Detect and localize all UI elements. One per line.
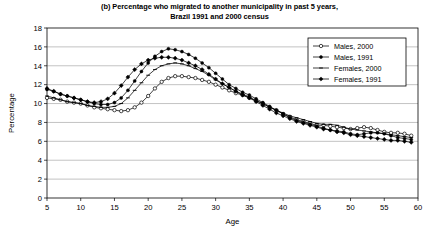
legend-label-3: Females, 1991 xyxy=(334,75,382,84)
series-3-point-54 xyxy=(409,140,413,144)
x-axis-title: Age xyxy=(226,217,240,226)
series-0-point-12 xyxy=(126,108,129,111)
series-0-point-22 xyxy=(194,76,197,79)
series-3-point-21 xyxy=(187,61,191,65)
x-tick-label-55: 55 xyxy=(380,203,388,212)
series-0-point-14 xyxy=(140,101,143,104)
series-3-point-3 xyxy=(65,94,69,98)
series-3-point-50 xyxy=(382,137,386,141)
series-3-point-22 xyxy=(193,64,197,68)
series-3-point-1 xyxy=(52,89,56,93)
series-0-point-52 xyxy=(396,131,399,134)
x-tick-label-45: 45 xyxy=(313,203,321,212)
x-tick-label-10: 10 xyxy=(77,203,85,212)
series-3-point-6 xyxy=(85,100,89,104)
series-1-point-17 xyxy=(160,50,163,53)
series-1-point-26 xyxy=(221,78,224,81)
y-tick-label-4: 4 xyxy=(38,156,42,165)
series-0-point-26 xyxy=(221,86,224,89)
y-tick-label-12: 12 xyxy=(34,80,42,89)
series-0-point-20 xyxy=(180,74,183,77)
y-tick-label-10: 10 xyxy=(34,99,42,108)
x-tick-label-5: 5 xyxy=(45,203,49,212)
series-3-point-5 xyxy=(79,98,83,102)
y-tick-label-2: 2 xyxy=(38,175,42,184)
series-0-point-15 xyxy=(146,94,149,97)
chart-container: (b) Percentage who migrated to another m… xyxy=(0,0,439,239)
series-0-point-46 xyxy=(356,126,359,129)
series-1-point-23 xyxy=(201,61,204,64)
legend-marker-0 xyxy=(319,44,322,47)
series-0-point-16 xyxy=(153,87,156,90)
x-tick-label-40: 40 xyxy=(279,203,287,212)
y-axis-title: Percentage xyxy=(7,93,16,133)
series-3-point-48 xyxy=(369,135,373,139)
series-3-point-8 xyxy=(99,100,103,104)
legend-label-0: Males, 2000 xyxy=(334,42,373,51)
y-tick-label-18: 18 xyxy=(34,24,42,33)
y-tick-label-14: 14 xyxy=(34,62,42,71)
x-tick-label-20: 20 xyxy=(144,203,152,212)
series-1-point-22 xyxy=(194,57,197,60)
series-1-point-14 xyxy=(140,70,143,73)
series-0-point-47 xyxy=(362,125,365,128)
series-0-point-11 xyxy=(120,109,123,112)
series-0-point-18 xyxy=(167,76,170,79)
series-3-point-51 xyxy=(389,138,393,142)
series-0-point-48 xyxy=(369,126,372,129)
series-1-point-18 xyxy=(167,47,170,50)
y-tick-label-6: 6 xyxy=(38,137,42,146)
series-0-point-54 xyxy=(410,134,413,137)
series-1-point-10 xyxy=(113,101,116,104)
series-0-point-25 xyxy=(214,83,217,86)
series-3-point-47 xyxy=(362,135,366,139)
series-3-point-42 xyxy=(328,128,332,132)
series-1-point-9 xyxy=(106,103,109,106)
series-1-point-21 xyxy=(187,53,190,56)
series-0-point-42 xyxy=(329,125,332,128)
legend: Males, 2000Males, 1991Females, 2000Femal… xyxy=(308,38,406,86)
series-0-point-19 xyxy=(173,74,176,77)
x-tick-label-35: 35 xyxy=(245,203,253,212)
chart-plot-area: 02468101214161851015202530354045505560Ag… xyxy=(0,0,439,239)
series-3-point-53 xyxy=(402,139,406,143)
series-0-point-13 xyxy=(133,106,136,109)
series-1-point-25 xyxy=(214,72,217,75)
series-3-point-4 xyxy=(72,96,76,100)
series-0-point-21 xyxy=(187,75,190,78)
x-axis-ticks: 51015202530354045505560 xyxy=(45,198,422,212)
series-1-point-20 xyxy=(180,50,183,53)
legend-marker-1 xyxy=(320,56,323,59)
series-0-point-53 xyxy=(403,132,406,135)
series-1-point-12 xyxy=(126,89,129,92)
series-3-point-18 xyxy=(166,55,170,59)
legend-label-1: Males, 1991 xyxy=(334,53,373,62)
series-1-point-13 xyxy=(133,79,136,82)
y-tick-label-16: 16 xyxy=(34,43,42,52)
series-1-point-19 xyxy=(174,48,177,51)
x-tick-label-30: 30 xyxy=(211,203,219,212)
series-3-point-19 xyxy=(173,56,177,60)
y-tick-label-8: 8 xyxy=(38,118,42,127)
series-1-point-24 xyxy=(207,66,210,69)
series-0-point-23 xyxy=(200,78,203,81)
x-tick-label-15: 15 xyxy=(110,203,118,212)
x-tick-label-60: 60 xyxy=(414,203,422,212)
series-3-point-52 xyxy=(396,138,400,142)
x-tick-label-25: 25 xyxy=(178,203,186,212)
series-0-point-17 xyxy=(160,80,163,83)
series-0-point-24 xyxy=(207,80,210,83)
series-0-point-10 xyxy=(113,108,116,111)
series-3-point-2 xyxy=(58,92,62,96)
series-1-point-11 xyxy=(120,96,123,99)
series-0-point-9 xyxy=(106,108,109,111)
series-3-point-17 xyxy=(160,55,164,59)
series-3-point-20 xyxy=(180,58,184,62)
series-3-point-49 xyxy=(375,136,379,140)
y-tick-label-0: 0 xyxy=(38,194,42,203)
legend-label-2: Females, 2000 xyxy=(334,64,382,73)
x-tick-label-50: 50 xyxy=(346,203,354,212)
